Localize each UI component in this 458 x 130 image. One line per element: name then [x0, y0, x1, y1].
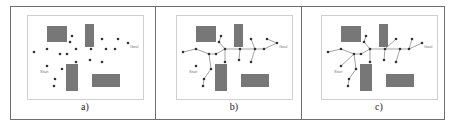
- sample-node: [395, 38, 398, 41]
- sample-node: [195, 48, 198, 51]
- sample-node: [75, 61, 78, 64]
- obstacle: [341, 26, 361, 42]
- sample-node: [353, 53, 356, 56]
- sample-node: [101, 61, 104, 64]
- sample-node: [203, 78, 206, 81]
- sample-node: [69, 41, 72, 44]
- sample-node: [369, 48, 372, 51]
- sample-node: [250, 61, 253, 64]
- sample-node: [46, 48, 49, 51]
- sample-node: [114, 48, 117, 51]
- sample-node: [71, 35, 74, 38]
- sample-node: [53, 85, 56, 88]
- sample-node: [210, 68, 213, 71]
- sample-node: [202, 85, 205, 88]
- sample-node: [347, 85, 350, 88]
- obstacle: [234, 24, 243, 47]
- sample-node: [33, 51, 36, 54]
- obstacle: [196, 26, 216, 42]
- sample-node: [266, 38, 269, 41]
- sample-node: [340, 48, 343, 51]
- goal-node: [421, 42, 424, 45]
- obstacle: [85, 24, 94, 47]
- panel-caption: c): [359, 101, 399, 112]
- sample-node: [250, 38, 253, 41]
- start-label: Start: [334, 69, 343, 74]
- sample-node: [75, 48, 78, 51]
- start-label: Start: [189, 69, 198, 74]
- obstacle: [66, 64, 78, 91]
- obstacle: [92, 74, 120, 87]
- sample-node: [182, 51, 185, 54]
- sample-node: [327, 51, 330, 54]
- sample-node: [101, 38, 104, 41]
- sample-node: [408, 48, 411, 51]
- sample-node: [411, 38, 414, 41]
- goal-node: [127, 42, 130, 45]
- sample-node: [54, 78, 57, 81]
- panel-caption: b): [214, 101, 254, 112]
- sample-node: [395, 61, 398, 64]
- sample-node: [208, 53, 211, 56]
- sample-node: [218, 41, 221, 44]
- obstacle: [215, 64, 227, 91]
- sample-node: [360, 53, 363, 56]
- sample-node: [61, 68, 64, 71]
- goal-label: Goal: [130, 44, 139, 49]
- start-node: [46, 65, 49, 68]
- sample-node: [215, 53, 218, 56]
- sample-node: [399, 48, 402, 51]
- sample-node: [363, 41, 366, 44]
- sample-node: [117, 38, 120, 41]
- sample-node: [220, 35, 223, 38]
- sample-node: [59, 53, 62, 56]
- sample-node: [224, 61, 227, 64]
- sample-node: [365, 35, 368, 38]
- start-label: Start: [40, 69, 49, 74]
- sample-node: [238, 59, 241, 62]
- obstacle: [386, 74, 414, 87]
- sample-node: [348, 78, 351, 81]
- sample-node: [105, 48, 108, 51]
- sample-node: [263, 48, 266, 51]
- sample-node: [355, 68, 358, 71]
- obstacle: [379, 24, 388, 47]
- goal-node: [276, 42, 279, 45]
- goal-label: Goal: [279, 44, 288, 49]
- start-node: [195, 65, 198, 68]
- sample-node: [383, 59, 386, 62]
- sample-node: [224, 48, 227, 51]
- sample-node: [89, 59, 92, 62]
- start-node: [340, 65, 343, 68]
- sample-node: [66, 53, 69, 56]
- obstacle: [360, 64, 372, 91]
- sample-node: [90, 48, 93, 51]
- goal-label: Goal: [424, 44, 433, 49]
- sample-node: [254, 48, 257, 51]
- sample-node: [369, 61, 372, 64]
- obstacle: [241, 74, 269, 87]
- sample-node: [239, 48, 242, 51]
- obstacle: [47, 26, 67, 42]
- sample-node: [384, 48, 387, 51]
- panel-caption: a): [65, 101, 105, 112]
